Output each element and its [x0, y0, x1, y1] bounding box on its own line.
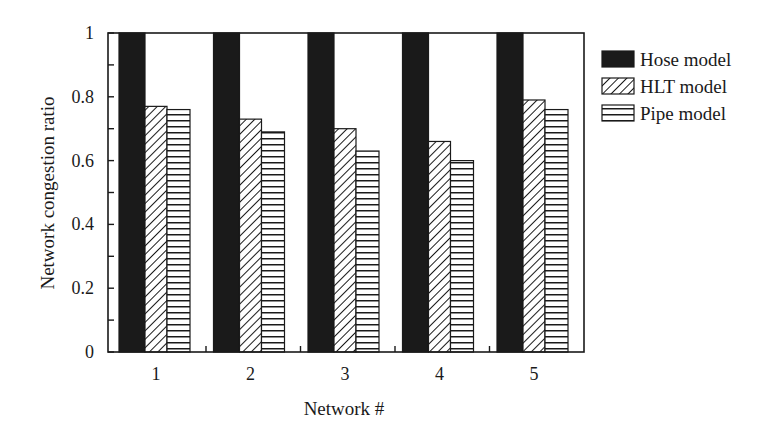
y-tick-label: 0.8	[72, 87, 95, 107]
bar-hose-model-network-2	[214, 33, 240, 352]
x-tick-label: 4	[435, 364, 444, 384]
legend-label: HLT model	[640, 76, 727, 97]
bar-hlt-model-network-3	[334, 129, 356, 352]
y-tick-label: 0.2	[72, 278, 95, 298]
legend-label: Hose model	[640, 49, 731, 70]
bar-hose-model-network-5	[497, 33, 523, 352]
y-tick-label: 1	[85, 23, 94, 43]
bar-hose-model-network-1	[119, 33, 145, 352]
bar-pipe-model-network-5	[545, 110, 568, 352]
bar-hlt-model-network-1	[145, 106, 167, 352]
bar-hose-model-network-4	[403, 33, 429, 352]
x-tick-label: 3	[341, 364, 350, 384]
x-tick-label: 2	[246, 364, 255, 384]
legend-label: Pipe model	[640, 103, 726, 124]
bar-hose-model-network-3	[308, 33, 334, 352]
x-tick-label: 5	[530, 364, 539, 384]
bar-pipe-model-network-2	[262, 132, 285, 352]
bar-pipe-model-network-4	[451, 161, 474, 352]
bar-hlt-model-network-2	[240, 119, 262, 352]
y-tick-label: 0	[85, 342, 94, 362]
y-tick-label: 0.6	[72, 151, 95, 171]
bars-group	[119, 33, 568, 352]
bar-hlt-model-network-4	[429, 141, 451, 352]
bar-pipe-model-network-1	[167, 110, 190, 352]
y-tick-label: 0.4	[72, 214, 95, 234]
bar-pipe-model-network-3	[356, 151, 379, 352]
legend-swatch-solid	[602, 51, 634, 67]
x-tick-label: 1	[152, 364, 161, 384]
bar-hlt-model-network-5	[523, 100, 545, 352]
bar-chart: 00.20.40.60.81 12345 Network congestion …	[0, 0, 782, 431]
legend: Hose modelHLT modelPipe model	[602, 49, 731, 124]
legend-swatch-diagonal-hatch	[602, 78, 634, 94]
y-axis-label: Network congestion ratio	[37, 96, 58, 289]
legend-swatch-horizontal-lines	[602, 105, 634, 121]
x-axis-label: Network #	[304, 398, 385, 419]
